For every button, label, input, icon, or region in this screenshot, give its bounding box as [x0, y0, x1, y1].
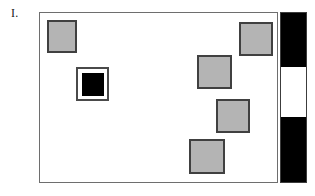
- scale-segment-light-middle: [281, 67, 306, 116]
- marker-bottom[interactable]: [189, 139, 225, 174]
- marker-highlighted-core: [82, 73, 104, 96]
- marker-canvas: [40, 13, 277, 182]
- marker-mid-right[interactable]: [197, 55, 232, 89]
- marker-top-left[interactable]: [47, 20, 77, 53]
- scale-segment-dark-top: [281, 13, 306, 67]
- scale-bar: [280, 12, 307, 183]
- marker-top-right[interactable]: [239, 22, 273, 56]
- marker-highlighted[interactable]: [76, 67, 109, 101]
- image-frame: [39, 12, 278, 183]
- marker-lower-right[interactable]: [216, 99, 250, 133]
- panel-label: I.: [11, 7, 19, 20]
- scale-segment-dark-bottom: [281, 117, 306, 182]
- figure-root: I.: [0, 0, 315, 196]
